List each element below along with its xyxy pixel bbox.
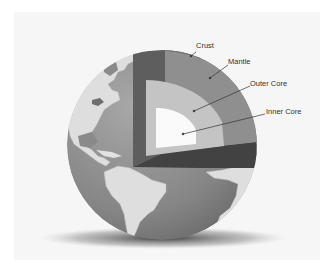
earth-diagram [0,0,336,274]
globe [67,50,260,240]
label-mantle: Mantle [228,58,251,66]
diagram-canvas: Crust Mantle Outer Core Inner Core [0,0,336,274]
label-inner-core: Inner Core [266,108,301,116]
label-crust: Crust [196,42,214,50]
label-outer-core: Outer Core [250,80,287,88]
